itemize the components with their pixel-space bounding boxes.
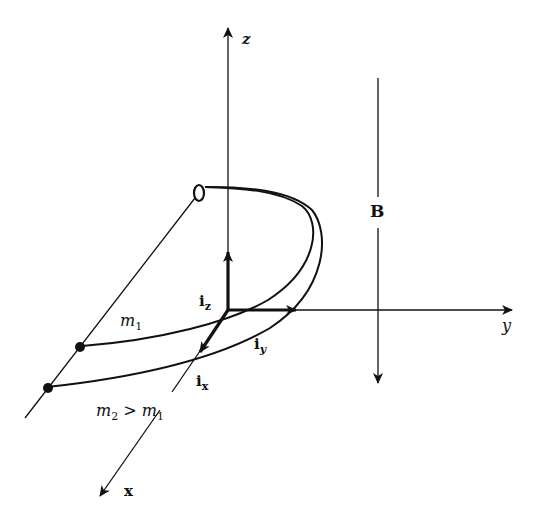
diagram-canvas: z y x B iz iy ix m1 m2 > m1 [0,0,540,523]
z-axis-label: z [242,32,251,47]
mass-m2-dot [43,383,53,393]
ix-vector [200,310,228,352]
diagram-drawing [0,0,540,523]
source-aperture [194,185,204,201]
y-axis-label: y [502,318,511,334]
mass-relation-label: m2 > m1 [96,403,164,422]
iy-label: iy [254,337,266,355]
trajectory-m2 [47,187,322,387]
x-axis-label: x [124,484,133,499]
mass-m1-dot [75,342,85,352]
iz-label: iz [199,294,211,312]
mass-m1-label: m1 [120,313,142,332]
ix-label: ix [196,374,208,392]
b-field-label: B [370,203,384,220]
